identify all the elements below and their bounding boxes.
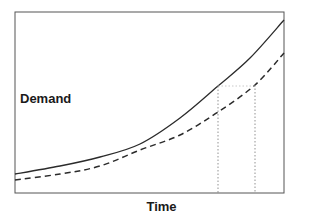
y-axis-label: Demand — [20, 91, 71, 106]
demand-time-chart — [0, 0, 309, 220]
x-axis-label: Time — [0, 199, 309, 214]
dashed-demand-curve — [15, 53, 284, 180]
